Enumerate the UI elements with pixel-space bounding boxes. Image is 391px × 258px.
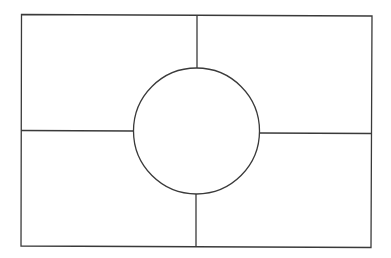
diagram-canvas xyxy=(0,0,391,258)
quadrant-circle-diagram xyxy=(0,0,391,258)
center-circle xyxy=(134,68,260,194)
left-horizontal-divider xyxy=(21,131,134,132)
right-horizontal-divider xyxy=(260,133,372,134)
